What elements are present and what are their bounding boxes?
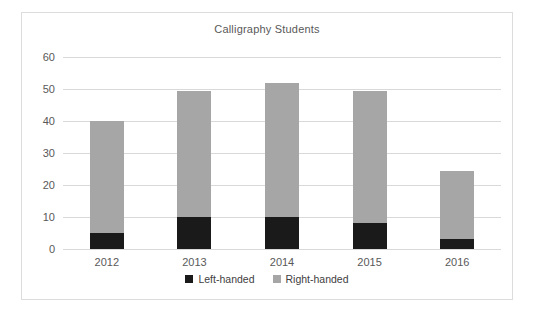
bar-segment-left-handed-2013[interactable] [177,217,211,249]
bar-group-2015[interactable]: 2015 [353,91,387,249]
bar-segment-right-handed-2013[interactable] [177,91,211,217]
x-axis-category-label: 2016 [445,256,469,268]
legend-swatch-icon [185,275,193,283]
gridline-60: 60 [63,57,501,58]
bar-segment-right-handed-2014[interactable] [265,83,299,217]
bar-segment-left-handed-2015[interactable] [353,223,387,249]
y-axis-tick-label: 50 [43,83,55,95]
y-axis-tick-label: 30 [43,147,55,159]
bar-group-2016[interactable]: 2016 [440,171,474,249]
bar-segment-left-handed-2012[interactable] [90,233,124,249]
y-axis-tick-label: 40 [43,115,55,127]
y-axis-tick-label: 10 [43,211,55,223]
bar-segment-left-handed-2014[interactable] [265,217,299,249]
x-axis-category-label: 2012 [95,256,119,268]
y-axis-tick-label: 0 [49,243,55,255]
plot-area: 0102030405060 20122013201420152016 [63,57,501,249]
legend-item-right-handed[interactable]: Right-handed [273,273,349,285]
legend-label: Right-handed [286,273,349,285]
legend-item-left-handed[interactable]: Left-handed [185,273,254,285]
gridline-0: 0 [63,249,501,250]
bar-group-2013[interactable]: 2013 [177,91,211,249]
bar-segment-left-handed-2016[interactable] [440,239,474,249]
y-axis-tick-label: 20 [43,179,55,191]
x-axis-category-label: 2015 [357,256,381,268]
bar-segment-right-handed-2012[interactable] [90,121,124,233]
bar-group-2014[interactable]: 2014 [265,83,299,249]
chart-frame: Calligraphy Students 0102030405060 20122… [21,12,513,300]
x-axis-category-label: 2014 [270,256,294,268]
y-axis-tick-label: 60 [43,51,55,63]
bar-segment-right-handed-2016[interactable] [440,171,474,240]
bar-segment-right-handed-2015[interactable] [353,91,387,224]
legend-swatch-icon [273,275,281,283]
chart-title: Calligraphy Students [22,23,512,35]
bar-group-2012[interactable]: 2012 [90,121,124,249]
chart-legend: Left-handedRight-handed [22,273,512,285]
legend-label: Left-handed [198,273,254,285]
x-axis-category-label: 2013 [182,256,206,268]
